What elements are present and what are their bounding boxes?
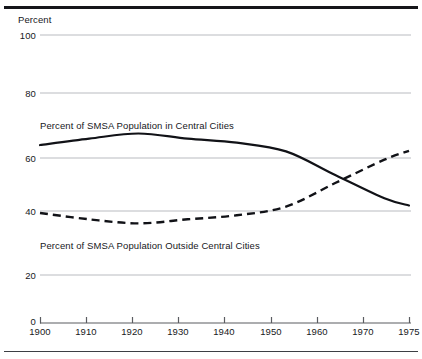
gridlines: [40, 35, 411, 275]
x-axis-ticks: [87, 317, 410, 323]
chart-figure: Percent 100 80 60 40 20 0 19: [0, 0, 422, 359]
x-tick-label-1900: 1900: [20, 326, 60, 337]
x-tick-label-1910: 1910: [66, 326, 106, 337]
y-tick-label-40: 40: [14, 206, 36, 217]
y-tick-label-20: 20: [14, 270, 36, 281]
bottom-divider-rule: [4, 351, 418, 352]
x-tick-label-1960: 1960: [297, 326, 337, 337]
axis-lines: [40, 317, 411, 324]
series-label-outside-central-cities: Percent of SMSA Population Outside Centr…: [40, 240, 260, 251]
x-tick-label-1930: 1930: [158, 326, 198, 337]
y-tick-label-60: 60: [14, 153, 36, 164]
series-line-outside-central-cities: [40, 151, 409, 224]
x-tick-label-1950: 1950: [251, 326, 291, 337]
plot-area: [0, 0, 422, 359]
x-tick-label-1975: 1975: [389, 326, 422, 337]
x-tick-label-1920: 1920: [112, 326, 152, 337]
y-tick-label-100: 100: [14, 30, 36, 41]
x-tick-label-1970: 1970: [343, 326, 383, 337]
series-label-central-cities: Percent of SMSA Population in Central Ci…: [40, 120, 234, 131]
x-tick-label-1940: 1940: [204, 326, 244, 337]
series-line-central-cities: [40, 134, 409, 206]
y-tick-label-80: 80: [14, 88, 36, 99]
